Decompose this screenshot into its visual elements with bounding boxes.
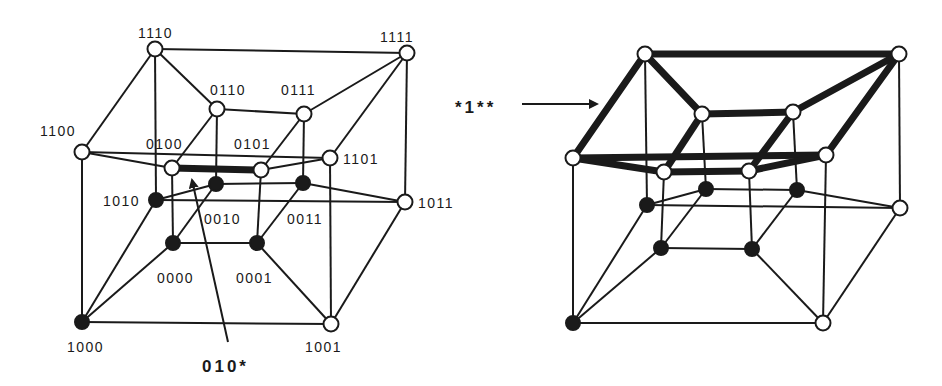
edge-0011-1011 <box>303 183 405 202</box>
edge-0011-0001 <box>752 190 797 249</box>
node-1111 <box>400 46 415 61</box>
node-0111 <box>786 105 801 120</box>
node-0100 <box>657 165 672 180</box>
node-0110 <box>210 102 225 117</box>
node-0111 <box>297 107 312 122</box>
edge-0110-0111 <box>217 109 304 114</box>
node-label-0000: 0000 <box>157 270 194 286</box>
node-0010 <box>699 182 713 196</box>
edge-1101-1001 <box>330 158 331 324</box>
edge-0111-0011 <box>303 114 304 183</box>
highlighted-edge-1111-0111 <box>793 54 899 112</box>
edge-1111-1101 <box>330 53 407 158</box>
node-0001 <box>250 236 264 250</box>
node-1100 <box>566 151 581 166</box>
edge-0010-0011 <box>216 183 303 184</box>
edge-1100-1101 <box>82 152 330 158</box>
node-0000 <box>166 236 180 250</box>
edge-1110-1010 <box>645 54 647 205</box>
edge-1111-1011 <box>899 54 900 208</box>
edge-1110-1010 <box>155 49 156 200</box>
edge-1000-1001 <box>82 322 331 324</box>
right-hypercube <box>566 47 908 331</box>
node-label-0101: 0101 <box>234 136 271 152</box>
left-hypercube: 1110111101100111110001000101110110100010… <box>40 25 454 355</box>
node-label-0111: 0111 <box>281 82 316 98</box>
node-1000 <box>566 316 580 330</box>
node-1000 <box>75 315 89 329</box>
edge-0100-0000 <box>661 172 664 248</box>
node-label-1011: 1011 <box>418 195 454 211</box>
edge-1011-1001 <box>331 202 405 324</box>
edge-1010-1011 <box>647 205 900 208</box>
node-0110 <box>695 107 710 122</box>
edge-1111-1011 <box>405 53 407 202</box>
edge-0110-0010 <box>702 114 706 189</box>
edge-1110-1100 <box>82 49 155 152</box>
edge-0010-0000 <box>661 189 706 248</box>
highlighted-edge-1110-1100 <box>573 54 645 158</box>
edge-1101-1001 <box>823 155 826 323</box>
node-1011 <box>398 195 413 210</box>
node-0010 <box>209 177 223 191</box>
hypercube-diagram: 1110111101100111110001000101110110100010… <box>0 0 942 386</box>
node-0001 <box>745 242 759 256</box>
edge-1010-1011 <box>156 200 405 202</box>
node-1101 <box>819 148 834 163</box>
edge-1010-1000 <box>573 205 647 323</box>
node-1101 <box>323 151 338 166</box>
highlighted-edge-0100-0101 <box>664 171 749 172</box>
node-1111 <box>892 47 907 62</box>
node-label-0011: 0011 <box>287 211 323 227</box>
highlighted-edge-1100-1101 <box>573 155 826 158</box>
highlighted-edge-1110-0110 <box>645 54 702 114</box>
node-0000 <box>654 241 668 255</box>
edge-1110-1111 <box>155 49 407 53</box>
highlighted-edge-0110-0100 <box>664 114 702 172</box>
highlighted-edge-0110-0111 <box>702 112 793 114</box>
node-label-1101: 1101 <box>343 151 379 167</box>
edge-1010-1000 <box>82 200 156 322</box>
edge-0011-1011 <box>797 190 900 208</box>
highlighted-edge-0100-0101 <box>172 168 261 170</box>
edge-0001-1001 <box>752 249 823 323</box>
label-star-1-star-star: *1** <box>455 98 496 117</box>
node-label-1000: 1000 <box>67 339 104 355</box>
node-1110 <box>148 42 163 57</box>
edge-1110-0110 <box>155 49 217 109</box>
node-0101 <box>742 164 757 179</box>
node-label-1001: 1001 <box>305 339 342 355</box>
node-label-0001: 0001 <box>236 270 273 286</box>
node-1011 <box>893 201 908 216</box>
edge-1010-0010 <box>647 189 706 205</box>
node-label-1110: 1110 <box>138 25 173 41</box>
node-label-1010: 1010 <box>103 193 140 209</box>
node-1100 <box>75 145 90 160</box>
edge-0111-0011 <box>793 112 797 190</box>
node-1110 <box>638 47 653 62</box>
highlighted-edge-1111-1101 <box>826 54 899 155</box>
edge-0101-0001 <box>749 171 752 249</box>
edge-0100-0000 <box>172 168 173 243</box>
node-label-0110: 0110 <box>210 82 246 98</box>
arrow-010-star <box>192 180 228 342</box>
label-010-star: 010* <box>202 357 249 376</box>
node-label-0010: 0010 <box>204 211 241 227</box>
edge-0000-0001 <box>661 248 752 249</box>
node-label-0100: 0100 <box>146 136 183 152</box>
edge-1011-1001 <box>823 208 900 323</box>
node-0011 <box>296 176 310 190</box>
node-1010 <box>640 198 654 212</box>
node-1010 <box>149 193 163 207</box>
node-0100 <box>165 161 180 176</box>
edge-0110-0010 <box>216 109 217 184</box>
edge-0101-0001 <box>257 170 261 243</box>
edge-0000-1000 <box>573 248 661 323</box>
edge-0101-1101 <box>261 158 330 170</box>
node-0011 <box>790 183 804 197</box>
node-1001 <box>816 316 831 331</box>
node-0101 <box>254 163 269 178</box>
node-1001 <box>324 317 339 332</box>
node-label-1100: 1100 <box>40 123 76 139</box>
edge-0010-0011 <box>706 189 797 190</box>
